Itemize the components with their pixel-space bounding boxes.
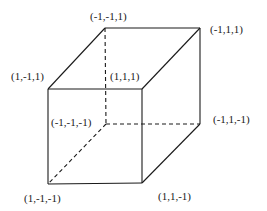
visible-edge <box>48 183 142 184</box>
visible-edge <box>142 124 200 183</box>
cube-edges <box>48 28 200 184</box>
vertex-label-m1-m1-m1: (-1,-1,-1) <box>51 117 91 128</box>
vertex-label-1-1-1: (1,1,1) <box>110 71 139 82</box>
hidden-edge <box>105 28 106 124</box>
vertex-label-m1-m1-1: (-1,-1,1) <box>90 11 127 22</box>
vertex-label-1-m1-1: (1,-1,1) <box>11 71 44 82</box>
vertex-label-m1-1-1: (-1,1,1) <box>210 24 243 35</box>
vertex-label-m1-1-m1: (-1,1,-1) <box>213 114 250 125</box>
vertex-label-1-m1-m1: (1,-1,-1) <box>24 193 61 204</box>
visible-edge <box>142 28 200 89</box>
hidden-edge <box>48 124 106 184</box>
visible-edge <box>48 28 105 89</box>
vertex-label-1-1-m1: (1,1,-1) <box>158 191 191 202</box>
